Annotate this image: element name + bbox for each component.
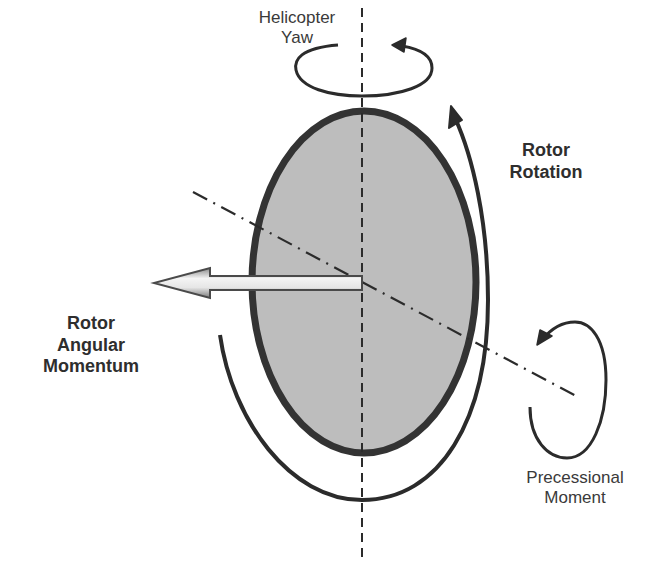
precessional-moment-label-line-2: Moment: [500, 488, 650, 508]
rotor-angular-momentum-label-line-2: Angular: [26, 335, 156, 357]
helicopter-yaw-arc: [296, 45, 432, 96]
rotor-angular-momentum-label: Rotor Angular Momentum: [26, 313, 156, 378]
helicopter-yaw-label-line-2: Yaw: [232, 28, 362, 48]
helicopter-yaw-label-line-1: Helicopter: [232, 8, 362, 28]
rotor-angular-momentum-label-line-1: Rotor: [26, 313, 156, 335]
helicopter-yaw-arrowhead-icon: [392, 38, 406, 52]
precessional-moment-label-line-1: Precessional: [500, 468, 650, 488]
helicopter-yaw-label: Helicopter Yaw: [232, 8, 362, 49]
rotor-rotation-label-line-2: Rotation: [496, 162, 596, 184]
precessional-moment-label: Precessional Moment: [500, 468, 650, 509]
rotor-rotation-label: Rotor Rotation: [496, 140, 596, 183]
rotor-rotation-label-line-1: Rotor: [496, 140, 596, 162]
rotor-angular-momentum-label-line-3: Momentum: [26, 356, 156, 378]
